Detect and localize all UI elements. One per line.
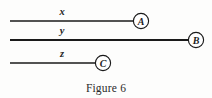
segment-label-z: z [59, 48, 65, 59]
segment-label-x: x [58, 6, 64, 17]
node-label-b: B [192, 35, 200, 46]
line-segment-diagram: x A y B z C Figure 6 [0, 0, 212, 98]
segment-group-z: z C [10, 48, 111, 71]
segment-group-x: x A [10, 6, 149, 29]
segment-label-y: y [58, 25, 65, 36]
node-label-a: A [137, 16, 145, 27]
node-label-c: C [100, 58, 107, 69]
figure-caption: Figure 6 [86, 82, 126, 95]
figure-container: x A y B z C Figure 6 [0, 0, 212, 98]
segment-group-y: y B [10, 25, 204, 48]
